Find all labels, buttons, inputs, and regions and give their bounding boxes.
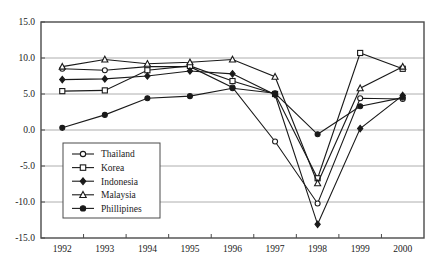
line-chart: 15.010.05.00.0-5.0-10.0-15.0199219931994… [0, 0, 437, 265]
marker-filled-circle [400, 95, 405, 100]
y-axis-tick-label: -10.0 [15, 197, 35, 207]
marker-open-circle [102, 68, 107, 73]
marker-filled-circle [145, 96, 150, 101]
legend-label-korea: Korea [101, 163, 125, 173]
chart-legend: ThailandKoreaIndonesiaMalaysiaPhillipine… [63, 143, 160, 218]
x-axis-tick-label: 1993 [95, 244, 114, 254]
marker-open-triangle [144, 61, 150, 67]
x-axis-tick-label: 1994 [138, 244, 157, 254]
marker-filled-diamond [102, 76, 107, 82]
marker-open-circle [80, 151, 85, 156]
marker-open-triangle [187, 59, 193, 65]
legend-label-malaysia: Malaysia [101, 190, 137, 200]
x-axis-tick-label: 1999 [351, 244, 370, 254]
series-line [62, 88, 402, 134]
legend-label-indonesia: Indonesia [101, 177, 139, 187]
marker-open-triangle [272, 74, 278, 80]
y-axis-tick-label: -15.0 [15, 233, 35, 243]
marker-filled-circle [60, 125, 65, 130]
marker-open-square [60, 89, 65, 94]
y-axis-tick-label: 10.0 [18, 53, 35, 63]
marker-open-triangle [102, 56, 108, 62]
marker-open-circle [358, 96, 363, 101]
marker-filled-circle [273, 91, 278, 96]
y-axis-tick-label: 0.0 [23, 125, 35, 135]
marker-filled-diamond [358, 125, 363, 131]
x-axis-tick-label: 1997 [266, 244, 285, 254]
x-axis-tick-label: 1992 [53, 244, 72, 254]
marker-open-square [80, 165, 85, 170]
marker-open-triangle [229, 56, 235, 62]
marker-open-square [102, 88, 107, 93]
legend-label-phillipines: Phillipines [101, 204, 142, 214]
marker-filled-diamond [60, 76, 65, 82]
marker-open-circle [315, 201, 320, 206]
marker-open-triangle [400, 63, 406, 69]
x-axis-tick-label: 1996 [223, 244, 242, 254]
marker-filled-circle [358, 104, 363, 109]
marker-filled-circle [80, 206, 85, 211]
x-axis-tick-label: 1995 [180, 244, 199, 254]
legend-label-thailand: Thailand [101, 149, 135, 159]
series-phillipines [60, 86, 405, 137]
marker-open-square [358, 50, 363, 55]
marker-open-circle [273, 139, 278, 144]
x-axis-tick-label: 2000 [393, 244, 412, 254]
marker-filled-diamond [315, 221, 320, 227]
marker-filled-circle [230, 86, 235, 91]
marker-filled-circle [187, 94, 192, 99]
y-axis-tick-label: 15.0 [18, 17, 35, 27]
marker-open-triangle [59, 63, 65, 69]
marker-filled-circle [315, 132, 320, 137]
marker-filled-diamond [230, 71, 235, 77]
marker-open-triangle [357, 85, 363, 91]
marker-filled-diamond [145, 73, 150, 79]
x-axis-tick-label: 1998 [308, 244, 327, 254]
y-axis-tick-label: 5.0 [23, 89, 35, 99]
y-axis-tick-label: -5.0 [20, 161, 35, 171]
marker-open-square [230, 78, 235, 83]
marker-filled-circle [102, 112, 107, 117]
chart-figure: 15.010.05.00.0-5.0-10.0-15.0199219931994… [0, 0, 437, 265]
